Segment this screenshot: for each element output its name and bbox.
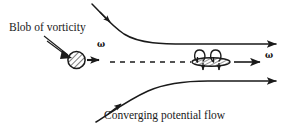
vorticity-blob — [68, 51, 85, 68]
upper-streamline — [92, 4, 276, 44]
blob-of-vorticity-label: Blob of vorticity — [9, 22, 86, 34]
omega-label-right: ω — [265, 51, 273, 60]
converging-potential-flow-label: Converging potential flow — [104, 110, 225, 122]
vortex-stretching-diagram: Blob of vorticity Converging potential f… — [0, 0, 284, 128]
stretched-vortex-tube — [192, 50, 230, 70]
blob-leader-arrow — [44, 36, 72, 59]
omega-label-blob: ω — [97, 40, 105, 49]
